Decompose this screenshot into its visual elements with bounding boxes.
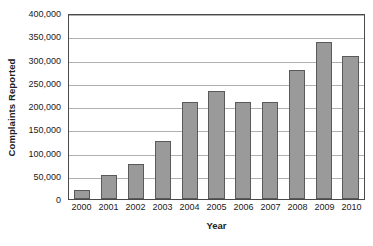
y-axis-tick-label: 50,000 xyxy=(16,172,61,182)
bar[interactable] xyxy=(316,42,332,199)
y-axis-tick-label: 400,000 xyxy=(16,9,61,19)
x-axis-tick-label: 2001 xyxy=(95,202,122,216)
bar-slot xyxy=(230,15,257,199)
bar-slot xyxy=(203,15,230,199)
y-axis-tick-label: 200,000 xyxy=(16,102,61,112)
bar-slot xyxy=(337,15,364,199)
bar[interactable] xyxy=(342,56,358,199)
x-axis-tick-label: 2003 xyxy=(149,202,176,216)
y-axis-tick-labels: 050,000100,000150,000200,000250,000300,0… xyxy=(20,14,65,200)
x-axis-tick-label: 2000 xyxy=(68,202,95,216)
bar-slot xyxy=(96,15,123,199)
bar-slot xyxy=(257,15,284,199)
bar[interactable] xyxy=(128,164,144,199)
chart-title xyxy=(0,0,373,3)
bar[interactable] xyxy=(235,102,251,199)
x-axis-tick-label: 2008 xyxy=(284,202,311,216)
bar-slot xyxy=(176,15,203,199)
x-axis-title: Year xyxy=(68,220,365,231)
bar[interactable] xyxy=(289,70,305,199)
x-axis-tick-labels: 2000200120022003200420052006200720082009… xyxy=(68,202,365,216)
bar[interactable] xyxy=(74,190,90,199)
bar-slot xyxy=(310,15,337,199)
x-axis-tick-label: 2006 xyxy=(230,202,257,216)
bar[interactable] xyxy=(262,102,278,199)
x-axis-tick-label: 2005 xyxy=(203,202,230,216)
y-axis-tick-label: 100,000 xyxy=(16,149,61,159)
bar[interactable] xyxy=(182,102,198,199)
y-axis-tick-label: 0 xyxy=(16,195,61,205)
bar-slot xyxy=(284,15,311,199)
y-axis-tick-label: 250,000 xyxy=(16,79,61,89)
bar-slot xyxy=(69,15,96,199)
bar[interactable] xyxy=(155,141,171,199)
y-axis-tick-label: 300,000 xyxy=(16,56,61,66)
y-axis-tick-label: 150,000 xyxy=(16,125,61,135)
bar-slot xyxy=(149,15,176,199)
x-axis-tick-label: 2007 xyxy=(257,202,284,216)
bars-container xyxy=(69,15,364,199)
bar-slot xyxy=(123,15,150,199)
bar[interactable] xyxy=(101,175,117,199)
x-axis-tick-label: 2004 xyxy=(176,202,203,216)
bar[interactable] xyxy=(208,91,224,199)
bar-chart-figure: Complaints Reported 050,000100,000150,00… xyxy=(0,0,373,246)
x-axis-tick-label: 2010 xyxy=(338,202,365,216)
plot-area xyxy=(68,14,365,200)
y-axis-tick-label: 350,000 xyxy=(16,32,61,42)
x-axis-tick-label: 2002 xyxy=(122,202,149,216)
x-axis-tick-label: 2009 xyxy=(311,202,338,216)
